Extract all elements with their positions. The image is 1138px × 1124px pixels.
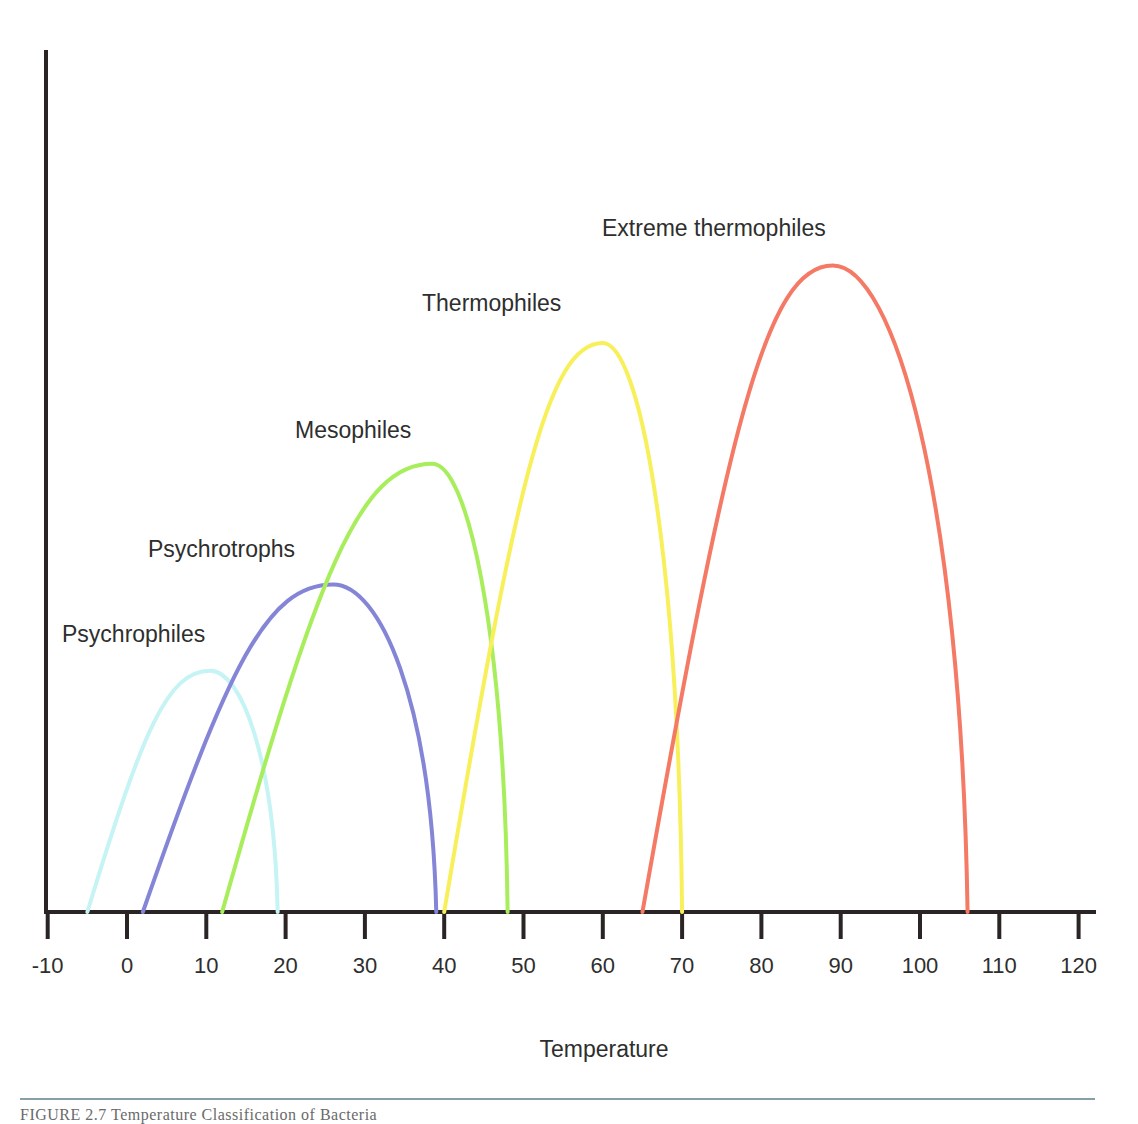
mesophiles-label: Mesophiles: [295, 417, 411, 443]
x-tick-label: 0: [121, 953, 133, 978]
x-tick-label: 80: [749, 953, 773, 978]
x-tick-label: 120: [1060, 953, 1097, 978]
x-axis-ticks: [48, 912, 1079, 939]
mesophiles-curve: [222, 464, 507, 912]
x-tick-label: 100: [902, 953, 939, 978]
x-tick-label: 110: [982, 953, 1017, 978]
thermophiles-curve: [444, 343, 682, 912]
psychrophiles-label: Psychrophiles: [62, 621, 205, 647]
psychrotrophs-label: Psychrotrophs: [148, 536, 295, 562]
psychrophiles-curve: [87, 671, 277, 912]
growth-curves: [87, 266, 967, 913]
x-tick-label: 10: [194, 953, 218, 978]
x-tick-label: 30: [353, 953, 377, 978]
x-tick-label: -10: [32, 953, 64, 978]
x-axis-tick-labels: -100102030405060708090100110120: [32, 953, 1097, 978]
extreme-thermophiles-curve: [642, 266, 967, 913]
curve-labels: PsychrophilesPsychrotrophsMesophilesTher…: [62, 215, 826, 647]
figure-caption: FIGURE 2.7 Temperature Classification of…: [20, 1106, 377, 1124]
x-axis-label: Temperature: [539, 1036, 668, 1062]
x-tick-label: 20: [273, 953, 297, 978]
x-tick-label: 70: [670, 953, 694, 978]
x-tick-label: 40: [432, 953, 456, 978]
x-tick-label: 50: [511, 953, 535, 978]
x-tick-label: 60: [591, 953, 615, 978]
thermophiles-label: Thermophiles: [422, 290, 561, 316]
extreme-thermophiles-label: Extreme thermophiles: [602, 215, 826, 241]
x-tick-label: 90: [828, 953, 852, 978]
